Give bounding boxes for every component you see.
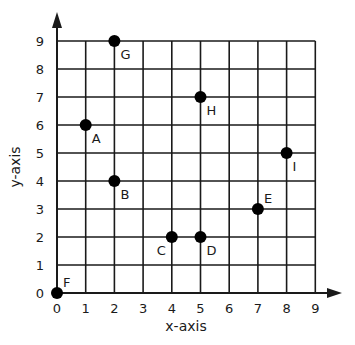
x-tick-label: 5 bbox=[196, 301, 204, 316]
data-point-a: A bbox=[80, 119, 101, 146]
point-label: B bbox=[120, 187, 129, 202]
x-tick-label: 1 bbox=[82, 301, 90, 316]
y-tick-label: 1 bbox=[36, 258, 44, 273]
y-axis-arrow-icon bbox=[52, 12, 62, 28]
x-tick-labels: 0123456789 bbox=[53, 301, 320, 316]
y-tick-label: 4 bbox=[36, 174, 44, 189]
x-tick-label: 4 bbox=[168, 301, 176, 316]
point-label: I bbox=[293, 159, 297, 174]
point-marker bbox=[166, 231, 178, 243]
x-axis-arrow-icon bbox=[327, 288, 342, 298]
point-marker bbox=[108, 175, 120, 187]
grid-lines bbox=[57, 41, 315, 293]
x-tick-label: 2 bbox=[110, 301, 118, 316]
point-label: F bbox=[63, 275, 70, 290]
x-tick-label: 3 bbox=[139, 301, 147, 316]
data-point-i: I bbox=[281, 147, 297, 174]
point-label: D bbox=[207, 243, 217, 258]
y-tick-label: 0 bbox=[36, 286, 44, 301]
y-tick-label: 9 bbox=[36, 34, 44, 49]
data-point-e: E bbox=[252, 191, 272, 215]
data-point-f: F bbox=[51, 275, 70, 299]
data-point-b: B bbox=[108, 175, 129, 202]
point-marker bbox=[252, 203, 264, 215]
point-marker bbox=[195, 91, 207, 103]
point-marker bbox=[80, 119, 92, 131]
y-tick-label: 5 bbox=[36, 146, 44, 161]
y-tick-label: 6 bbox=[36, 118, 44, 133]
data-points: ABCDEFGHI bbox=[51, 35, 296, 299]
y-tick-label: 2 bbox=[36, 230, 44, 245]
point-label: A bbox=[92, 131, 101, 146]
point-marker bbox=[195, 231, 207, 243]
point-label: G bbox=[120, 47, 130, 62]
point-label: E bbox=[264, 191, 272, 206]
x-tick-label: 7 bbox=[254, 301, 262, 316]
point-marker bbox=[51, 287, 63, 299]
data-point-h: H bbox=[195, 91, 217, 118]
y-tick-label: 3 bbox=[36, 202, 44, 217]
point-marker bbox=[108, 35, 120, 47]
x-tick-label: 9 bbox=[311, 301, 319, 316]
y-tick-labels: 0123456789 bbox=[36, 34, 44, 301]
coordinate-grid-chart: 0123456789 0123456789 ABCDEFGHI x-axis y… bbox=[0, 0, 355, 345]
data-point-g: G bbox=[108, 35, 130, 62]
axes bbox=[52, 12, 342, 298]
data-point-d: D bbox=[195, 231, 217, 258]
y-tick-label: 7 bbox=[36, 90, 44, 105]
y-axis-title: y-axis bbox=[7, 146, 23, 187]
point-label: H bbox=[207, 103, 217, 118]
x-tick-label: 0 bbox=[53, 301, 61, 316]
x-tick-label: 8 bbox=[282, 301, 290, 316]
x-axis-title: x-axis bbox=[165, 318, 206, 334]
point-label: C bbox=[157, 243, 166, 258]
data-point-c: C bbox=[157, 231, 178, 258]
x-tick-label: 6 bbox=[225, 301, 233, 316]
y-tick-label: 8 bbox=[36, 62, 44, 77]
point-marker bbox=[281, 147, 293, 159]
